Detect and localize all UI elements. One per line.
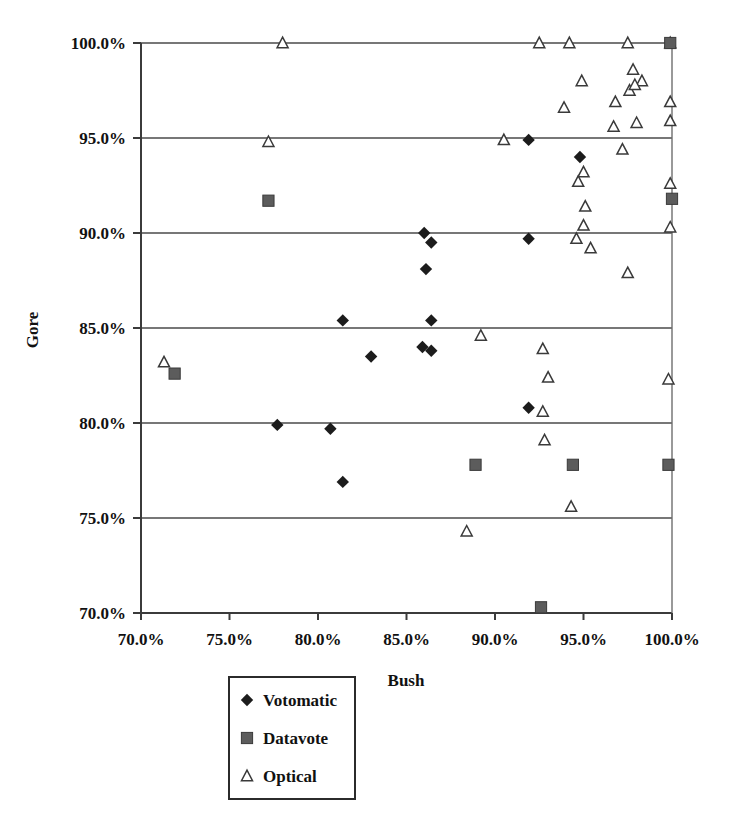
x-tick-label: 95.0% (560, 630, 607, 649)
data-point (337, 314, 349, 326)
data-point (159, 356, 170, 366)
data-point (610, 96, 621, 106)
y-tick-label: 70.0% (79, 604, 126, 623)
data-point (535, 602, 546, 613)
legend-marker-triangle (241, 770, 252, 780)
data-point (539, 434, 550, 444)
x-tick-label: 90.0% (472, 630, 519, 649)
data-point (425, 236, 437, 248)
legend-label: Datavote (263, 729, 329, 748)
data-point (666, 193, 677, 204)
data-point (470, 459, 481, 470)
legend-marker-square (241, 732, 252, 743)
data-point (559, 102, 570, 112)
y-tick-label: 85.0% (79, 319, 126, 338)
legend-label: Votomatic (263, 691, 337, 710)
data-point (418, 227, 430, 239)
y-axis-tick-labels: 70.0%75.0%80.0%85.0%90.0%95.0%100.0% (71, 34, 126, 623)
y-tick-label: 90.0% (79, 224, 126, 243)
data-point (522, 233, 534, 245)
data-point (665, 222, 676, 232)
x-axis-title: Bush (388, 671, 425, 690)
y-tick-label: 100.0% (71, 34, 126, 53)
data-series-layer (159, 37, 678, 613)
data-point (566, 501, 577, 511)
data-point (665, 115, 676, 125)
series-optical (159, 37, 676, 536)
y-tick-label: 80.0% (79, 414, 126, 433)
x-tick-label: 100.0% (644, 630, 699, 649)
data-point (567, 459, 578, 470)
legend-entries: VotomaticDatavoteOptical (241, 691, 338, 786)
x-tick-label: 80.0% (295, 630, 342, 649)
data-point (665, 96, 676, 106)
data-point (576, 75, 587, 85)
data-point (585, 242, 596, 252)
data-point (663, 459, 674, 470)
data-point (522, 402, 534, 414)
data-point (324, 423, 336, 435)
data-point (608, 121, 619, 131)
data-point (420, 263, 432, 275)
data-point (631, 117, 642, 127)
data-point (622, 267, 633, 277)
data-point (665, 37, 676, 48)
legend-marker-diamond (241, 694, 253, 706)
x-axis-ticks (141, 613, 672, 620)
x-tick-label: 75.0% (206, 630, 253, 649)
series-datavote (169, 37, 678, 613)
data-point (537, 406, 548, 416)
x-axis-tick-labels: 70.0%75.0%80.0%85.0%90.0%95.0%100.0% (118, 630, 700, 649)
chart-legend: VotomaticDatavoteOptical (229, 677, 355, 799)
scatter-chart: 70.0%75.0%80.0%85.0%90.0%95.0%100.0% 70.… (0, 0, 731, 821)
data-point (578, 220, 589, 230)
gridlines (141, 43, 672, 518)
data-point (337, 476, 349, 488)
data-point (537, 343, 548, 353)
data-point (543, 372, 554, 382)
data-point (665, 178, 676, 188)
x-tick-label: 85.0% (383, 630, 430, 649)
y-tick-label: 75.0% (79, 509, 126, 528)
data-point (169, 368, 180, 379)
data-point (365, 350, 377, 362)
legend-label: Optical (263, 767, 317, 786)
data-point (498, 134, 509, 144)
y-axis-title: Gore (23, 311, 42, 348)
data-point (571, 233, 582, 243)
y-tick-label: 95.0% (79, 129, 126, 148)
series-votomatic (271, 134, 586, 488)
data-point (617, 144, 628, 154)
chart-canvas: 70.0%75.0%80.0%85.0%90.0%95.0%100.0% 70.… (0, 0, 731, 821)
data-point (580, 201, 591, 211)
data-point (461, 526, 472, 536)
data-point (578, 166, 589, 176)
x-tick-label: 70.0% (118, 630, 165, 649)
data-point (263, 195, 274, 206)
data-point (628, 64, 639, 74)
data-point (425, 314, 437, 326)
data-point (522, 134, 534, 146)
data-point (574, 151, 586, 163)
y-axis-ticks (133, 43, 141, 613)
data-point (475, 330, 486, 340)
data-point (271, 419, 283, 431)
